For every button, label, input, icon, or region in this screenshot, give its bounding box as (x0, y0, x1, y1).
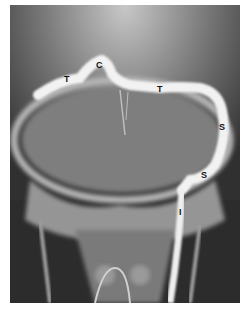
label-sigmoid-sinus-lower: S (201, 171, 207, 180)
label-transverse-sinus-left: T (64, 75, 70, 84)
label-transverse-sinus-right: T (157, 85, 163, 94)
label-confluence: C (96, 61, 103, 70)
label-sigmoid-sinus-upper: S (219, 123, 225, 132)
xray-graphic (10, 5, 240, 303)
xray-image (10, 5, 240, 303)
label-internal-jugular: I (179, 208, 182, 217)
